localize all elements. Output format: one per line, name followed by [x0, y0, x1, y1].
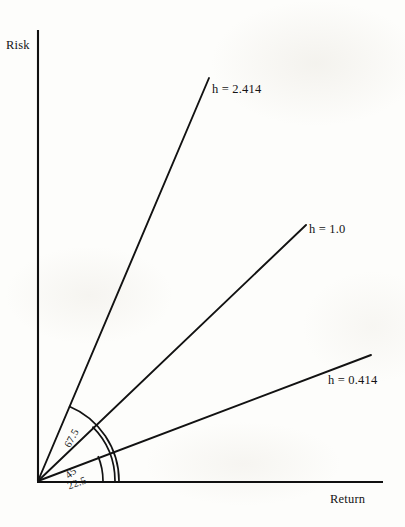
y-axis-label: Risk [6, 38, 30, 53]
ray-label-1: h = 1.0 [309, 222, 346, 237]
figure-canvas: Risk Return h = 2.414h = 1.0h = 0.414 67… [0, 0, 405, 527]
ray-label-0: h = 2.414 [212, 82, 261, 97]
angle-arc-2 [98, 456, 103, 481]
ray-line-0 [38, 78, 209, 481]
ray-label-2: h = 0.414 [328, 373, 377, 388]
axes-group [37, 30, 383, 482]
angle-diagram-svg [0, 0, 405, 527]
ray-line-1 [38, 225, 306, 481]
rays-group [38, 78, 371, 481]
x-axis-label: Return [330, 492, 365, 507]
